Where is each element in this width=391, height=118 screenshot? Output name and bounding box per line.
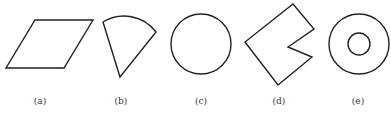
- annulus-shape: [329, 14, 389, 74]
- label-a: (a): [25, 96, 55, 106]
- parallelogram-shape: [6, 20, 93, 68]
- label-c: (c): [186, 96, 216, 106]
- notched-square-shape: [245, 4, 314, 85]
- label-e: (e): [343, 96, 373, 106]
- label-b: (b): [106, 96, 136, 106]
- circle-shape: [171, 14, 231, 74]
- sector-shape: [103, 16, 156, 77]
- figure-canvas: (a) (b) (c) (d) (e): [0, 0, 391, 118]
- label-d: (d): [264, 96, 294, 106]
